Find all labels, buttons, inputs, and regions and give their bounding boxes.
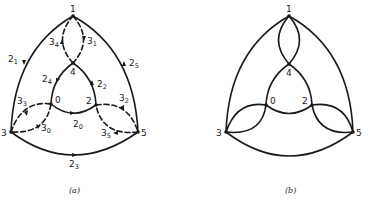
node-label-5: 5 (141, 128, 147, 138)
arrow-icon (122, 61, 126, 66)
figure-caption-a: (a) (69, 186, 80, 195)
edge-label-3_5: 35 (101, 128, 111, 140)
arrow-icon (22, 60, 26, 65)
node-3 (224, 130, 228, 134)
edge-label-2_3: 23 (69, 159, 79, 171)
arrow-icon (56, 78, 60, 83)
figure-caption-b: (b) (285, 186, 296, 195)
figure-b: 1 4 0 2 3 5 (b) (216, 4, 362, 195)
node-1 (71, 14, 75, 18)
edge-1-4 (73, 16, 84, 63)
node-1 (287, 14, 291, 18)
edge-label-3_2: 32 (119, 93, 129, 105)
edge-label-3_0: 30 (41, 123, 51, 135)
node-5 (351, 130, 355, 134)
edge-2-5-upper (312, 104, 353, 132)
edge-3-5 (226, 132, 353, 156)
edge-0-2 (266, 105, 312, 114)
node-2 (94, 103, 98, 107)
edge-label-3_1: 31 (87, 36, 97, 48)
node-label-2: 2 (86, 96, 92, 106)
node-2 (310, 103, 314, 107)
edge-label-2_4: 24 (42, 74, 52, 86)
figure-canvas: 1 4 0 2 3 5 21 25 34 31 24 22 33 30 20 3… (0, 0, 368, 202)
node-label-0: 0 (270, 96, 276, 106)
arrow-icon (113, 131, 118, 135)
node-label-3: 3 (1, 128, 7, 138)
node-label-1: 1 (286, 4, 292, 14)
node-3 (9, 130, 13, 134)
node-0 (49, 102, 53, 106)
node-label-4: 4 (70, 67, 76, 77)
node-label-3: 3 (216, 128, 222, 138)
figure-a: 1 4 0 2 3 5 21 25 34 31 24 22 33 30 20 3… (1, 4, 147, 195)
edge-1-4-right (289, 16, 300, 64)
edge-3-5 (11, 132, 138, 155)
edge-label-2_5: 25 (129, 58, 139, 70)
edge-1-4-left (279, 16, 290, 64)
node-4 (287, 62, 291, 66)
edge-label-3_4: 34 (49, 37, 59, 49)
node-5 (136, 130, 140, 134)
arrow-icon (70, 111, 75, 115)
node-label-2: 2 (302, 96, 308, 106)
node-0 (264, 103, 268, 107)
edge-label-2_0: 20 (73, 119, 83, 131)
node-4 (71, 61, 75, 65)
edge-3-0-upper (226, 104, 266, 132)
arrow-icon (82, 36, 86, 41)
edge-label-2_1: 21 (8, 54, 18, 66)
edge-4-2 (289, 64, 312, 105)
arrow-icon (60, 39, 64, 44)
edge-label-3_3: 33 (17, 96, 27, 108)
node-label-4: 4 (286, 68, 292, 78)
edge-label-2_2: 22 (97, 79, 107, 91)
arrow-icon (72, 153, 77, 157)
node-label-0: 0 (55, 95, 61, 105)
edge-4-1 (63, 16, 74, 63)
node-label-5: 5 (356, 128, 362, 138)
node-label-1: 1 (70, 4, 76, 14)
